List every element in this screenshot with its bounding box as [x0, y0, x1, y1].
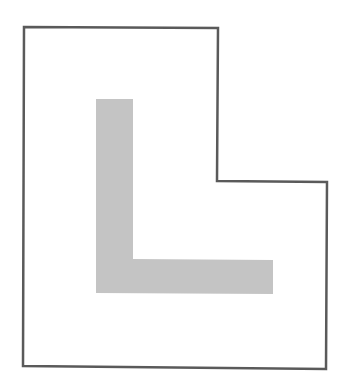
outline-shape	[23, 27, 327, 369]
diagram-canvas	[0, 0, 344, 387]
